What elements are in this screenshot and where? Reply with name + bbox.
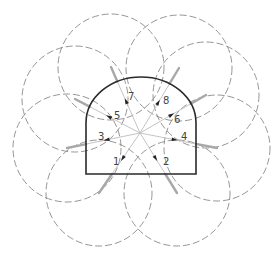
arrowhead-icon-2	[153, 155, 159, 162]
bolt-segment-6	[191, 95, 206, 104]
tunnel-outline	[86, 77, 196, 174]
bolt-ray-2	[140, 133, 165, 174]
bolt-segment-7	[111, 67, 117, 81]
bolt-rays	[86, 81, 196, 174]
arrowhead-icon-5	[105, 114, 112, 120]
bolt-ray-1	[112, 133, 140, 174]
arrowhead-icon-8	[155, 99, 161, 106]
bolt-ray-4	[140, 133, 196, 144]
bolt-ray-6	[140, 104, 191, 133]
bolt-segment-8	[170, 68, 179, 84]
bolt-label-6: 6	[174, 114, 180, 125]
bolt-segment-5	[75, 99, 90, 107]
bolt-label-8: 8	[163, 95, 169, 106]
bolt-segment-1	[99, 174, 112, 193]
bolt-label-1: 1	[113, 156, 119, 167]
bolt-label-4: 4	[181, 131, 187, 142]
bolt-label-7: 7	[128, 91, 134, 102]
bolt-ray-7	[117, 81, 140, 133]
bolt-label-2: 2	[163, 156, 169, 167]
diagram-canvas: 12345678	[0, 0, 272, 261]
bolt-label-3: 3	[98, 131, 104, 142]
bolt-segment-2	[165, 174, 177, 193]
tunnel-bolt-diagram: 12345678	[0, 0, 272, 261]
bolt-ray-3	[86, 133, 140, 144]
bolt-label-5: 5	[114, 110, 120, 121]
